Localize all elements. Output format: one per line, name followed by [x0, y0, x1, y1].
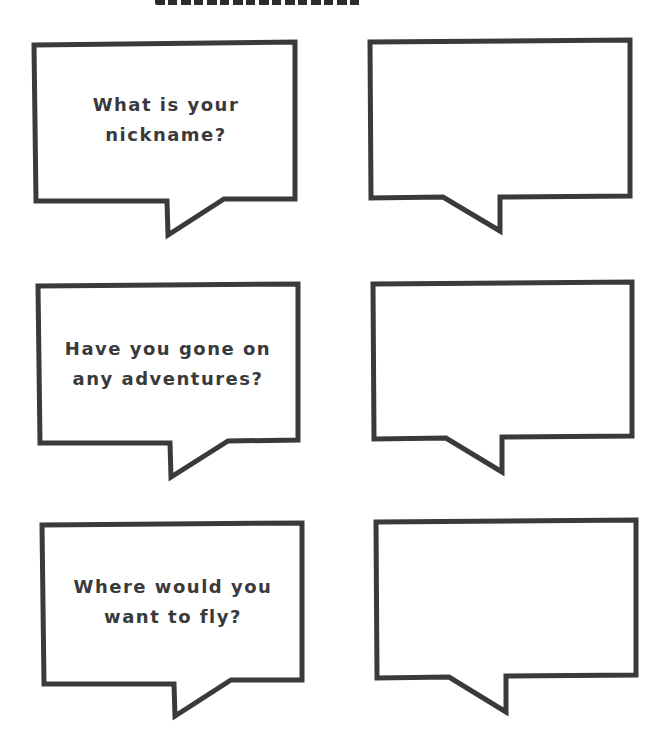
- question-text-3: Where would you want to fly?: [46, 572, 300, 632]
- answer-text-3[interactable]: [382, 570, 632, 670]
- question-text-1: What is your nickname?: [40, 90, 292, 150]
- answer-text-1[interactable]: [376, 90, 626, 190]
- question-text-2: Have you gone on any adventures?: [40, 334, 296, 394]
- answer-text-2[interactable]: [379, 330, 629, 430]
